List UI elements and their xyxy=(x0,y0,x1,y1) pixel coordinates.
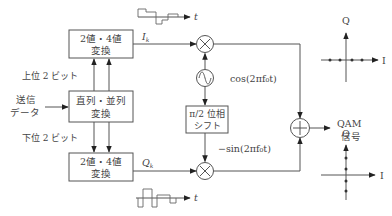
q-time-axis-label: t xyxy=(194,192,198,203)
qam-block-diagram: t 2値・4値 変換 Ik cos(2πf₀t) π/2 位相 シフト −sin… xyxy=(0,0,392,216)
conv-top-line2: 変換 xyxy=(91,45,111,56)
i-time-axis-label: t xyxy=(194,11,198,22)
lower-bits-label: 下位 2 ビット xyxy=(22,132,78,143)
ik-label: Ik xyxy=(141,31,150,43)
oscillator xyxy=(197,70,214,87)
upper-bits-label: 上位 2 ビット xyxy=(22,70,78,81)
q-axis-label: Q xyxy=(342,15,350,26)
conv-top-line1: 2値・4値 xyxy=(80,33,122,44)
input-label-line1: 送信 xyxy=(16,94,36,105)
conv-bottom-line1: 2値・4値 xyxy=(80,156,122,167)
adder xyxy=(291,119,310,138)
phase-shift-line2: シフト xyxy=(194,121,221,131)
serial-parallel-line1: 直列・並列 xyxy=(76,95,126,106)
cos-carrier-label: cos(2πf₀t) xyxy=(230,73,277,84)
phase-shift-line1: π/2 位相 xyxy=(189,108,225,119)
q-waveform: t xyxy=(136,189,198,207)
qk-label: Qk xyxy=(142,157,154,169)
conv-bottom-block: 2値・4値 変換 xyxy=(69,153,133,181)
serial-parallel-block: 直列・並列 変換 xyxy=(69,91,133,122)
neg-sin-carrier-label: −sin(2πf₀t) xyxy=(218,143,271,154)
multiplier-bottom xyxy=(197,163,214,180)
input-label-line2: データ xyxy=(10,107,40,118)
phase-shift-block: π/2 位相 シフト xyxy=(186,106,228,133)
q-axis-label: Q xyxy=(342,128,350,139)
conv-bottom-line2: 変換 xyxy=(91,168,111,179)
i-axis-label: I xyxy=(382,55,386,66)
i-axis-label: I xyxy=(380,170,384,181)
constellation-i: Q I xyxy=(321,15,386,82)
conv-top-block: 2値・4値 変換 xyxy=(69,30,133,58)
multiplier-top xyxy=(197,36,214,53)
i-waveform: t xyxy=(138,9,198,24)
serial-parallel-line2: 変換 xyxy=(91,108,111,119)
